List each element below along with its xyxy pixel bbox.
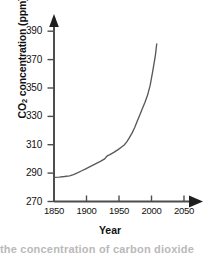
x-tick-label-2050: 2050 [164, 206, 204, 216]
data-line-co2 [54, 44, 157, 177]
y-tick-label-370: 370 [8, 55, 42, 65]
y-tick-label-350: 350 [8, 83, 42, 93]
x-axis-title: Year [70, 224, 150, 236]
y-tick-label-330: 330 [8, 111, 42, 121]
y-axis-arrowhead [49, 14, 59, 27]
y-tick-label-310: 310 [8, 140, 42, 150]
y-tick-label-390: 390 [8, 26, 42, 36]
y-tick-label-290: 290 [8, 168, 42, 178]
y-tick-label-270: 270 [8, 197, 42, 207]
clipped-caption-text: the concentration of carbon dioxide [0, 243, 215, 253]
chart-figure: CO2 concentration (ppm) [0, 0, 215, 253]
